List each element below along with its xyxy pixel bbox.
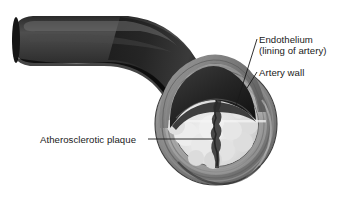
artery-diagram-svg [0, 0, 348, 202]
label-endothelium-line2: (lining of artery) [259, 45, 327, 56]
artery-illustration-figure: Endothelium (lining of artery) Artery wa… [0, 0, 348, 202]
label-endothelium: Endothelium (lining of artery) [259, 34, 327, 56]
label-atherosclerotic-plaque: Atherosclerotic plaque [40, 134, 136, 145]
label-artery-wall: Artery wall [259, 67, 304, 78]
label-endothelium-line1: Endothelium [259, 34, 327, 45]
artery-tube-end-cap [12, 17, 20, 63]
